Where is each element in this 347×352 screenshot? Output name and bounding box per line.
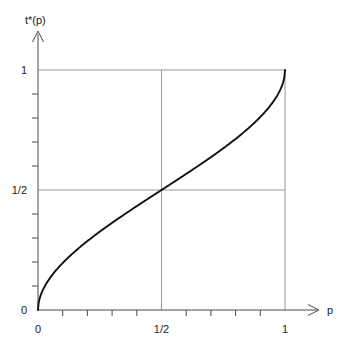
y-tick-label-0: 0 xyxy=(21,304,27,316)
x-axis-minor-ticks xyxy=(63,310,261,316)
y-axis-minor-ticks xyxy=(32,94,38,286)
axes xyxy=(33,31,320,316)
y-tick-label-half: 1/2 xyxy=(12,184,27,196)
chart-figure: t*(p) p 1 1/2 0 0 1/2 1 xyxy=(0,0,347,352)
y-tick-label-1: 1 xyxy=(21,64,27,76)
x-tick-label-0: 0 xyxy=(35,323,41,335)
x-axis-label: p xyxy=(327,304,333,316)
y-axis-label: t*(p) xyxy=(25,14,46,26)
plot-svg: t*(p) p 1 1/2 0 0 1/2 1 xyxy=(0,0,347,352)
x-tick-label-1: 1 xyxy=(282,323,288,335)
x-tick-label-half: 1/2 xyxy=(154,323,169,335)
